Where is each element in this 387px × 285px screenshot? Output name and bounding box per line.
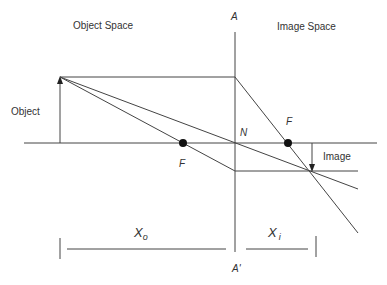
xi-label: Xi bbox=[267, 225, 282, 242]
image-label: Image bbox=[323, 151, 351, 162]
front-focal-label: F bbox=[179, 158, 186, 169]
ray-through-nodal bbox=[60, 77, 358, 189]
object-space-label: Object Space bbox=[73, 20, 133, 31]
ray-through-front-focus bbox=[60, 77, 235, 171]
front-focal-point bbox=[179, 139, 187, 147]
image-space-label: Image Space bbox=[277, 21, 336, 32]
back-focal-point bbox=[284, 139, 292, 147]
xi-main: X bbox=[267, 225, 278, 240]
nodal-point-label: N bbox=[240, 127, 248, 138]
axis-bottom-label: A' bbox=[231, 263, 242, 274]
xo-sub: o bbox=[143, 232, 148, 242]
back-focal-label: F bbox=[286, 116, 293, 127]
optics-diagram: Object Space Image Space Object Image A … bbox=[0, 0, 387, 285]
xo-label: Xo bbox=[133, 225, 148, 242]
axis-top-label: A bbox=[230, 11, 238, 22]
object-label: Object bbox=[11, 106, 40, 117]
xi-sub: i bbox=[279, 232, 282, 242]
